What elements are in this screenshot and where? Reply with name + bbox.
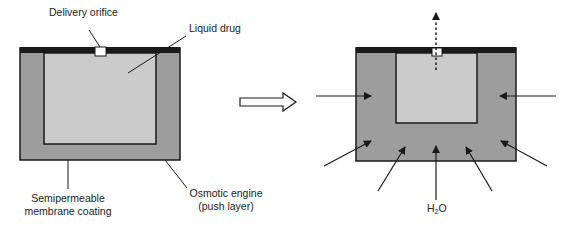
label-engine-line1: Osmotic engine <box>184 187 268 200</box>
liquid-drug-compartment <box>44 53 156 144</box>
left-device <box>20 30 187 189</box>
water-o: O <box>439 202 447 214</box>
right-device <box>316 13 556 200</box>
engine-leader-line <box>165 160 187 188</box>
label-osmotic-engine: Osmotic engine (push layer) <box>184 187 268 213</box>
delivery-orifice <box>95 47 106 56</box>
label-delivery-orifice: Delivery orifice <box>49 6 118 19</box>
label-water: H2O <box>427 202 447 218</box>
delivery-orifice <box>432 48 442 56</box>
label-membrane-line1: Semipermeable <box>16 192 120 205</box>
water-h: H <box>427 202 435 214</box>
label-liquid-drug: Liquid drug <box>189 22 241 35</box>
hollow-right-arrow-icon <box>240 93 296 111</box>
label-membrane-line2: membrane coating <box>16 205 120 218</box>
label-engine-line2: (push layer) <box>184 200 268 213</box>
label-semipermeable-membrane: Semipermeable membrane coating <box>16 192 120 218</box>
orifice-leader-line <box>89 30 100 47</box>
